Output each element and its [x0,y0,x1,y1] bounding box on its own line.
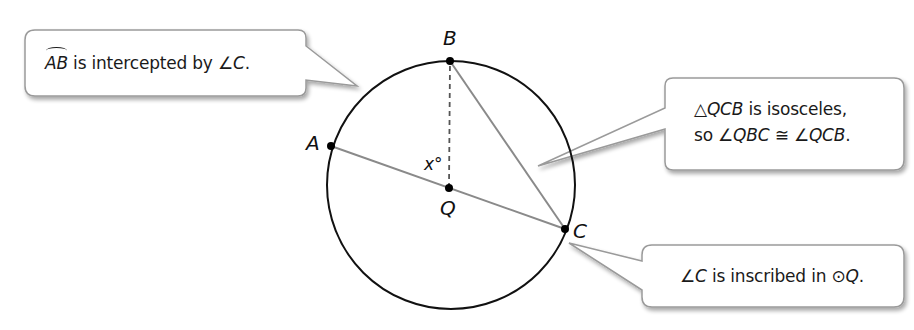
label-c: C [573,219,587,243]
isosceles-line-1: △QCB is isosceles, [694,96,850,122]
callout-isosceles-text: △QCB is isosceles, so ∠QBC ≅ ∠QCB. [694,96,850,148]
point-c [561,225,569,233]
label-a: A [306,131,320,155]
label-q: Q [440,196,456,220]
callout-inscribed-text: ∠C is inscribed in ⊙Q. [680,263,864,289]
diagram-canvas: B A Q C x° AB is intercepted by ∠C. △QCB… [0,0,914,330]
point-q [445,184,453,192]
radius-qb-dashed [449,61,450,188]
congruent-icon: ≅ [769,125,793,145]
triangle-icon: △ [694,99,707,119]
arc-symbol-icon [46,47,67,54]
arc-ab: AB [45,50,68,76]
point-b [446,57,454,65]
callout-arc-text: AB is intercepted by ∠C. [45,50,250,76]
label-b: B [443,26,457,50]
angle-label-x: x° [424,154,443,174]
chord-bc [450,61,565,229]
isosceles-line-2: so ∠QBC ≅ ∠QCB. [694,122,850,148]
point-a [327,142,335,150]
circle-dot-icon: ⊙ [831,266,845,286]
